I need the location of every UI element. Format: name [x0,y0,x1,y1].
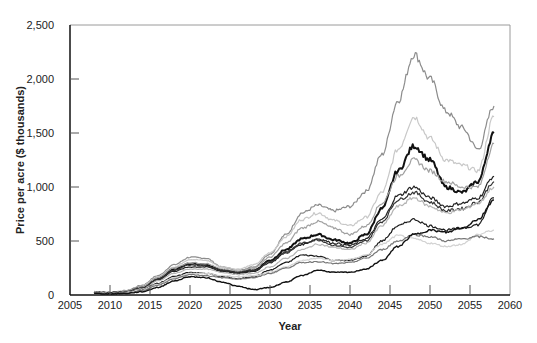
x-tick-label: 2050 [418,299,442,311]
x-tick-label: 2060 [498,299,522,311]
x-tick-label: 2025 [218,299,242,311]
x-tick-label: 2055 [458,299,482,311]
series-layer [94,53,494,295]
x-tick-label: 2040 [338,299,362,311]
x-tick-label: 2045 [378,299,402,311]
x-axis: 2005201020152020202520302035204020452050… [58,285,522,311]
y-tick-label: 1,500 [26,127,54,139]
x-tick-label: 2030 [258,299,282,311]
y-tick-label: 2,500 [26,19,54,31]
x-tick-label: 2015 [138,299,162,311]
series-line-2 [94,116,494,293]
y-axis-title: Price per acre ($ thousands) [14,86,26,234]
x-tick-label: 2020 [178,299,202,311]
y-axis: 05001,0001,5002,0002,500 [26,19,79,301]
x-axis-label: Year [278,320,302,332]
y-axis-label: Price per acre ($ thousands) [14,86,26,234]
y-tick-label: 0 [48,289,54,301]
y-tick-label: 2,000 [26,73,54,85]
x-tick-label: 2005 [58,299,82,311]
plot-frame [70,25,510,295]
x-tick-label: 2035 [298,299,322,311]
y-tick-label: 500 [36,235,54,247]
line-chart: Price per acre ($ thousands) Year 05001,… [0,0,537,343]
x-tick-label: 2010 [98,299,122,311]
y-tick-label: 1,000 [26,181,54,193]
series-line-3 [94,132,494,293]
